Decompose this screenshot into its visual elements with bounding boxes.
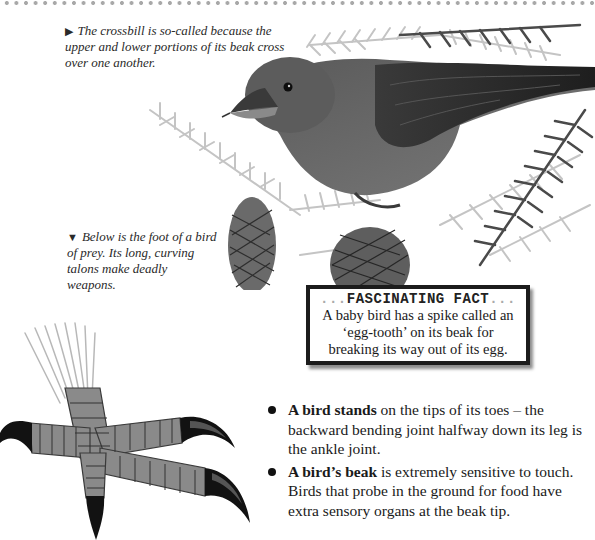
bullet-dot-icon [268, 406, 276, 414]
bullet-dot-icon [268, 468, 276, 476]
dotted-top-border [0, 0, 595, 6]
fact-body: A baby bird has a spike called an ‘egg-t… [310, 307, 526, 358]
bullet-lead: A bird stands [288, 401, 377, 418]
right-triangle-icon: ▶ [65, 25, 73, 37]
bullet-list: A bird stands on the tips of its toes – … [268, 400, 588, 523]
foot-caption: ▼Below is the foot of a bird of prey. It… [67, 229, 217, 293]
fact-title-text: FASCINATING FACT [347, 291, 489, 307]
bullet-item: A bird’s beak is extremely sensitive to … [268, 462, 588, 521]
talon-illustration [0, 318, 260, 540]
crossbill-caption-text: The crossbill is so-called because the u… [65, 23, 284, 70]
fact-title: ...FASCINATING FACT... [310, 291, 526, 307]
crossbill-caption: ▶The crossbill is so-called because the … [65, 23, 295, 71]
bullet-item: A bird stands on the tips of its toes – … [268, 400, 588, 459]
down-triangle-icon: ▼ [67, 231, 78, 243]
fascinating-fact-box: ...FASCINATING FACT... A baby bird has a… [306, 285, 530, 365]
fact-title-dots-left: ... [320, 291, 347, 307]
foot-caption-text: Below is the foot of a bird of prey. Its… [67, 229, 216, 292]
fact-title-dots-right: ... [489, 291, 516, 307]
bullet-lead: A bird’s beak [288, 463, 377, 480]
